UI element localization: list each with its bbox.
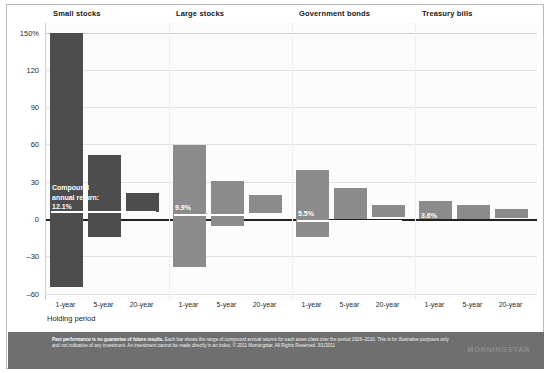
group-header-row: Small stocksLarge stocksGovernment bonds… [7,5,545,23]
y-axis-tick: –30 [26,252,39,261]
group-header-government-bonds: Government bonds [299,9,370,18]
y-axis: 150%1209060300–30–60 [7,23,45,323]
range-bar [334,188,367,219]
compound-annual-return-label: 5.5% [298,210,314,217]
group-header-treasury-bills: Treasury bills [422,9,472,18]
range-bar [457,205,490,220]
x-axis: 1-year5-year20-year1-year5-year20-year1-… [45,301,537,315]
group-separator [415,23,416,300]
x-axis-tick: 20-year [499,301,523,308]
x-axis-tick: 1-year [425,301,445,308]
compound-annual-return-line [420,222,525,224]
x-axis-tick: 20-year [253,301,277,308]
plot-area: Compoundannual return:12.1%9.9%5.5%3.6% [45,23,537,300]
range-bar [495,209,528,218]
x-axis-tick: 1-year [302,301,322,308]
annotation-line-3: 12.1% [52,202,99,212]
range-bar [211,181,244,226]
footer-disclaimer: Past performance is no guarantee of futu… [52,337,452,350]
range-bar [249,195,282,214]
footer-disclaimer-lead: Past performance is no guarantee of futu… [52,337,164,342]
range-bar [126,193,159,212]
x-axis-tick: 5-year [94,301,114,308]
y-axis-tick: 120 [26,66,39,75]
x-axis-tick: 1-year [56,301,76,308]
range-bar [372,205,405,217]
compound-annual-return-line [174,214,279,216]
chart-card: Small stocksLarge stocksGovernment bonds… [6,4,544,369]
compound-annual-return-label: 9.9% [175,204,191,211]
x-axis-tick: 20-year [130,301,154,308]
range-bar [50,33,83,287]
morningstar-logo: MORNINGSTAR [467,345,530,354]
y-axis-tick: 90 [31,103,39,112]
x-axis-tick: 5-year [217,301,237,308]
x-axis-tick: 1-year [179,301,199,308]
group-separator [292,23,293,300]
y-axis-tick: 30 [31,178,39,187]
compound-annual-return-label: 3.6% [421,212,437,219]
compound-annual-return-annotation: Compoundannual return:12.1% [52,183,99,212]
group-header-small-stocks: Small stocks [53,9,101,18]
x-axis-tick: 5-year [463,301,483,308]
group-header-large-stocks: Large stocks [176,9,224,18]
y-axis-tick: 0 [35,215,39,224]
compound-annual-return-line [297,220,402,222]
annotation-line-1: Compound [52,183,99,193]
chart-screenshot: Small stocksLarge stocksGovernment bonds… [0,0,550,373]
x-axis-tick: 20-year [376,301,400,308]
group-separator [169,23,170,300]
x-axis-tick: 5-year [340,301,360,308]
x-axis-title: Holding period [47,314,95,323]
range-bar [296,170,329,237]
y-axis-tick: 60 [31,140,39,149]
annotation-line-2: annual return: [52,193,99,203]
footer-bar: Past performance is no guarantee of futu… [8,332,544,369]
y-axis-tick: 150% [20,29,39,38]
y-axis-tick: –60 [26,290,39,299]
